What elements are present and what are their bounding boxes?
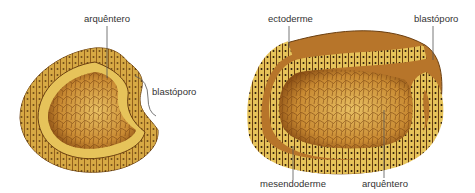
left-gastrula: [20, 48, 158, 172]
label-right-ectoderm: ectoderme: [268, 13, 313, 24]
label-right-mesendoderm: mesendoderme: [260, 178, 326, 189]
gastrula-diagram: [0, 0, 475, 193]
label-left-archenteron: arquêntero: [84, 13, 130, 24]
label-right-blastopore: blastóporo: [414, 13, 458, 24]
label-left-blastopore: blastóporo: [152, 86, 196, 97]
label-right-archenteron: arquêntero: [362, 178, 408, 189]
right-gastrula: [251, 31, 442, 174]
